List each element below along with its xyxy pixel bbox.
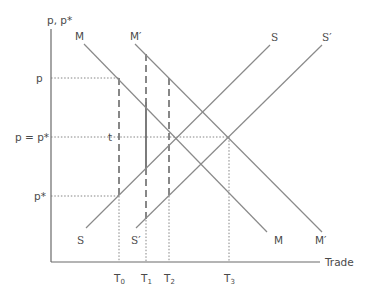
curve-label-S-prime-bottom: S′ — [131, 234, 141, 246]
curve-label-S-top: S — [271, 31, 278, 43]
price-label-p-eq: p = p* — [15, 131, 49, 143]
tick-label-t0: T0 — [113, 272, 125, 286]
curve-label-S-prime-top: S′ — [322, 31, 332, 43]
curve-label-S-bottom: S — [77, 234, 84, 246]
price-label-p-star: p* — [34, 190, 46, 202]
curve-label-M-top: M — [75, 30, 84, 42]
tick-label-t1: T1 — [140, 272, 152, 286]
tick-label-t2: T2 — [163, 272, 175, 286]
curve-label-M-prime-bottom: M′ — [315, 234, 327, 246]
tariff-label: t — [108, 131, 112, 143]
curve-label-M-prime-top: M′ — [130, 30, 142, 42]
price-label-p: p — [36, 72, 43, 84]
curve-S — [86, 45, 270, 228]
x-axis-label: Trade — [324, 256, 354, 268]
curve-label-M-bottom: M — [274, 234, 283, 246]
tick-label-t3: T3 — [223, 272, 235, 286]
y-axis-label: p, p* — [47, 14, 72, 26]
trade-diagram: p, p* Trade p p = p* p* t M M′ S S′ S S′… — [0, 0, 369, 298]
